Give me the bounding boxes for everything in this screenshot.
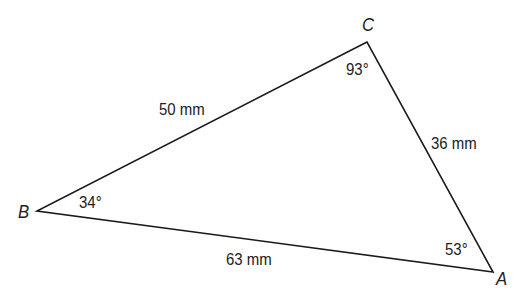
vertex-label-b: B — [18, 201, 29, 223]
angle-label-c: 93° — [346, 60, 369, 80]
vertex-label-a: A — [496, 268, 507, 290]
triangle-diagram: C B A 93° 34° 53° 50 mm 36 mm 63 mm — [0, 0, 514, 292]
vertex-label-c: C — [362, 14, 374, 36]
side-label-ba: 63 mm — [226, 250, 272, 270]
side-label-bc: 50 mm — [159, 100, 205, 120]
side-label-ca: 36 mm — [431, 134, 477, 154]
angle-label-a: 53° — [445, 240, 468, 260]
angle-label-b: 34° — [79, 193, 102, 213]
